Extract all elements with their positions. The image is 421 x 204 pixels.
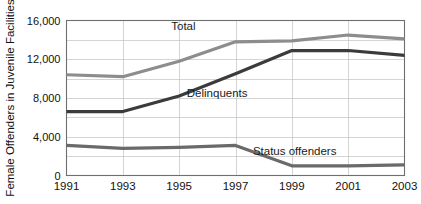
y-axis-title: Female Offenders in Juvenile Facilities bbox=[4, 0, 16, 197]
y-tick-label: 16,000 bbox=[27, 15, 61, 27]
x-tick-label: 1995 bbox=[166, 180, 192, 192]
y-tick-label: 8,000 bbox=[33, 92, 61, 104]
x-tick-label: 1997 bbox=[223, 180, 249, 192]
y-tick-label: 4,000 bbox=[33, 131, 61, 143]
series-label-total: Total bbox=[171, 20, 195, 32]
x-tick-label: 2001 bbox=[335, 180, 361, 192]
x-tick-label: 2003 bbox=[392, 180, 418, 192]
line-chart: 04,0008,00012,00016,000 1991199319951997… bbox=[0, 0, 421, 204]
y-tick-label: 12,000 bbox=[27, 53, 61, 65]
chart-background bbox=[0, 0, 421, 204]
x-tick-label: 1999 bbox=[279, 180, 305, 192]
chart-container: 04,0008,00012,00016,000 1991199319951997… bbox=[0, 0, 421, 204]
series-label-status-offenders: Status offenders bbox=[253, 145, 337, 157]
series-label-delinquents: Delinquents bbox=[187, 87, 248, 99]
x-tick-label: 1991 bbox=[54, 180, 80, 192]
x-tick-label: 1993 bbox=[110, 180, 136, 192]
